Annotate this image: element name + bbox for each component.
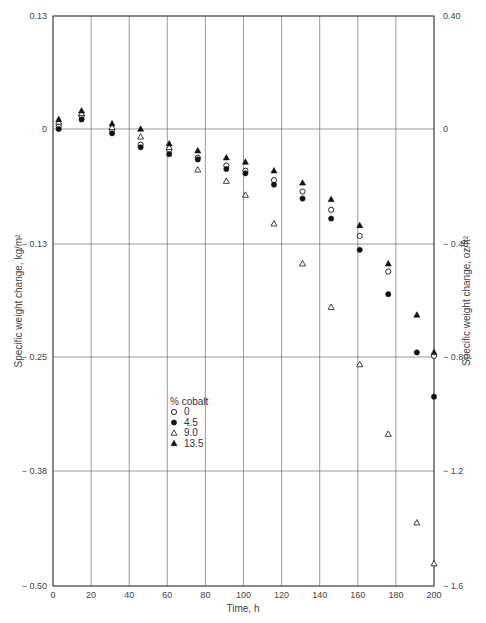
filled-circle-marker xyxy=(243,171,248,176)
open-triangle-marker xyxy=(328,304,334,309)
x-tick-label: 160 xyxy=(350,590,365,600)
filled-triangle-marker xyxy=(171,440,177,445)
filled-circle-marker xyxy=(109,131,114,136)
open-circle-marker xyxy=(386,269,391,274)
y-tick-label: 0 xyxy=(42,124,47,134)
filled-triangle-marker xyxy=(328,196,334,201)
series-cobalt-13.5 xyxy=(56,108,437,355)
open-triangle-marker xyxy=(223,178,229,183)
filled-circle-marker xyxy=(138,145,143,150)
filled-circle-marker xyxy=(300,196,305,201)
series-cobalt-9.0 xyxy=(56,110,437,566)
filled-circle-marker xyxy=(56,126,61,131)
y-axis-ticks-left: 0.130− 0.13− 0.25− 0.38− 0.50 xyxy=(22,11,47,591)
filled-triangle-marker xyxy=(385,261,391,266)
filled-circle-marker xyxy=(431,394,436,399)
y-tick-label: − 0.38 xyxy=(22,466,47,476)
y-tick-label: − 0.13 xyxy=(22,239,47,249)
filled-circle-marker xyxy=(195,157,200,162)
x-axis-label: Time, h xyxy=(227,603,260,614)
filled-triangle-marker xyxy=(271,168,277,173)
x-tick-label: 20 xyxy=(86,590,96,600)
open-triangle-marker xyxy=(195,167,201,172)
filled-circle-marker xyxy=(271,182,276,187)
x-tick-label: 60 xyxy=(162,590,172,600)
y-tick-label: − 0.50 xyxy=(22,581,47,591)
x-tick-label: 120 xyxy=(274,590,289,600)
filled-triangle-marker xyxy=(414,312,420,317)
open-triangle-marker xyxy=(271,221,277,226)
legend-entry-label: 13.5 xyxy=(184,438,204,449)
open-triangle-marker xyxy=(431,560,437,565)
filled-circle-marker xyxy=(414,350,419,355)
legend-entry-label: 4.5 xyxy=(184,417,198,428)
legend: % cobalt 04.59.013.5 xyxy=(170,396,209,449)
y-right-tick-label: − 1.6 xyxy=(443,581,463,591)
filled-circle-marker xyxy=(224,166,229,171)
data-points xyxy=(56,108,437,566)
y-tick-label: − 0.25 xyxy=(22,352,47,362)
x-tick-label: 140 xyxy=(312,590,327,600)
open-triangle-marker xyxy=(414,520,420,525)
x-tick-label: 200 xyxy=(426,590,441,600)
filled-triangle-marker xyxy=(138,126,144,131)
filled-circle-marker xyxy=(357,247,362,252)
filled-triangle-marker xyxy=(431,349,437,354)
open-circle-marker xyxy=(300,189,305,194)
open-triangle-marker xyxy=(138,134,144,139)
filled-triangle-marker xyxy=(300,180,306,185)
x-tick-label: 180 xyxy=(388,590,403,600)
filled-circle-marker xyxy=(171,420,176,425)
filled-triangle-marker xyxy=(56,116,62,121)
y-axis-label-left: Specific weight change, kg/m² xyxy=(13,234,24,368)
y-right-tick-label: 0.40 xyxy=(443,11,461,21)
open-circle-marker xyxy=(171,409,176,414)
x-axis-ticks: 020406080100120140160180200 xyxy=(50,590,441,600)
open-circle-marker xyxy=(329,207,334,212)
x-tick-label: 40 xyxy=(124,590,134,600)
filled-triangle-marker xyxy=(223,154,229,159)
filled-circle-marker xyxy=(167,152,172,157)
y-tick-label: 0.13 xyxy=(29,11,47,21)
filled-circle-marker xyxy=(329,216,334,221)
open-circle-marker xyxy=(357,233,362,238)
filled-circle-marker xyxy=(79,117,84,122)
filled-triangle-marker xyxy=(79,108,85,113)
open-triangle-marker xyxy=(385,431,391,436)
legend-entry-label: 9.0 xyxy=(184,427,198,438)
legend-entry-label: 0 xyxy=(184,406,190,417)
series-cobalt-0 xyxy=(56,113,436,358)
y-right-tick-label: 0 xyxy=(443,124,448,134)
filled-circle-marker xyxy=(386,292,391,297)
x-tick-label: 80 xyxy=(200,590,210,600)
filled-triangle-marker xyxy=(195,148,201,153)
x-tick-label: 0 xyxy=(50,590,55,600)
weight-change-chart: 020406080100120140160180200 0.130− 0.13−… xyxy=(0,0,486,623)
filled-triangle-marker xyxy=(109,121,115,126)
grid-lines xyxy=(53,16,434,586)
open-triangle-marker xyxy=(300,261,306,266)
x-tick-label: 100 xyxy=(236,590,251,600)
open-triangle-marker xyxy=(171,430,177,435)
y-axis-label-right: Specific weight change, oz/ft² xyxy=(461,235,472,366)
y-right-tick-label: − 1.2 xyxy=(443,466,463,476)
